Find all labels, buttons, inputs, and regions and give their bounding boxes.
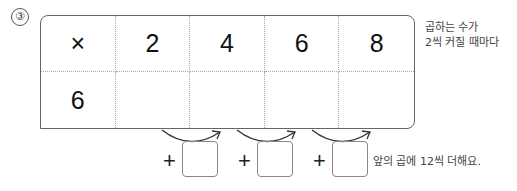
answer-box[interactable]	[332, 141, 368, 177]
hint-text: 앞의 곱에 12씩 더해요.	[373, 152, 481, 168]
side-note-line: 2씩 커질 때마다	[425, 35, 499, 50]
answer-cell[interactable]	[116, 72, 191, 128]
row-label-cell: 6	[41, 72, 116, 128]
header-operator-cell: ×	[41, 16, 116, 72]
plus-sign: +	[238, 148, 251, 174]
answer-cell[interactable]	[265, 72, 340, 128]
answer-box[interactable]	[182, 141, 218, 177]
side-note-line: 곱하는 수가	[425, 20, 499, 35]
problem-number: ③	[11, 8, 29, 26]
answer-cell[interactable]	[190, 72, 265, 128]
header-cell: 2	[116, 16, 191, 72]
header-cell: 6	[265, 16, 340, 72]
multiplication-table: × 2 4 6 8 6	[40, 15, 415, 129]
header-cell: 4	[190, 16, 265, 72]
side-note: 곱하는 수가 2씩 커질 때마다	[425, 20, 499, 50]
plus-sign: +	[163, 148, 176, 174]
answer-box[interactable]	[257, 141, 293, 177]
answer-cell[interactable]	[339, 72, 414, 128]
header-cell: 8	[339, 16, 414, 72]
plus-sign: +	[313, 148, 326, 174]
